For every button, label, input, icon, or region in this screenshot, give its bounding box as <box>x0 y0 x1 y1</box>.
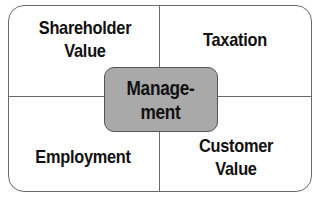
quadrant-customer-value: Customer Value <box>172 134 299 180</box>
quadrant-taxation: Taxation <box>172 28 298 51</box>
quadrant-label-line1: Employment <box>20 145 146 168</box>
quadrant-label-line2: Value <box>172 157 299 180</box>
center-label-line2: ment <box>127 100 195 124</box>
management-center-box: Manage- ment <box>104 67 218 132</box>
quadrant-label-line1: Taxation <box>172 28 298 51</box>
quadrant-label-line1: Customer <box>172 134 299 157</box>
center-label-line1: Manage- <box>127 76 195 100</box>
management-label: Manage- ment <box>127 76 195 124</box>
quadrant-label-line2: Value <box>24 39 146 62</box>
quadrant-shareholder-value: Shareholder Value <box>24 16 146 62</box>
quadrant-label-line1: Shareholder <box>24 16 146 39</box>
quadrant-employment: Employment <box>20 145 146 168</box>
